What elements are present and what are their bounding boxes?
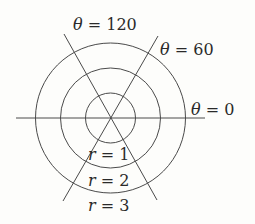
label-var: θ	[160, 40, 170, 59]
label-theta-0: θ = 0	[191, 100, 234, 119]
label-r-2: r = 2	[88, 171, 129, 190]
label-val: 120	[106, 15, 137, 34]
label-var: θ	[191, 100, 201, 119]
label-r-3: r = 3	[88, 196, 129, 215]
label-r-1: r = 1	[88, 145, 129, 164]
label-eq: =	[96, 171, 120, 190]
label-var: θ	[73, 15, 83, 34]
label-val: 0	[224, 100, 234, 119]
label-eq: =	[170, 40, 194, 59]
label-val: 2	[119, 171, 129, 190]
polar-grid-diagram: θ = 120 θ = 60 θ = 0 r = 1 r = 2 r = 3	[0, 0, 255, 224]
label-eq: =	[96, 145, 120, 164]
label-theta-120: θ = 120	[73, 15, 137, 34]
label-val: 3	[119, 196, 129, 215]
label-theta-60: θ = 60	[160, 40, 214, 59]
label-val: 1	[119, 145, 129, 164]
label-eq: =	[96, 196, 120, 215]
label-eq: =	[201, 100, 225, 119]
label-val: 60	[193, 40, 213, 59]
label-eq: =	[83, 15, 107, 34]
